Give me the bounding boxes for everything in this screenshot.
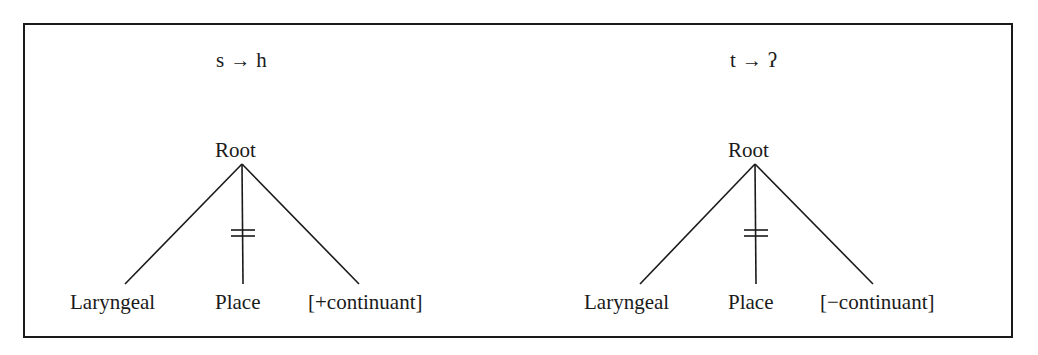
edge-root-place-left <box>242 164 243 284</box>
root-node-left: Root <box>215 140 256 161</box>
place-node-right: Place <box>728 292 773 313</box>
rule-output: h <box>256 48 267 72</box>
rule-output: ʔ <box>768 48 777 72</box>
rule-right: t→ʔ <box>730 50 777 71</box>
edge-root-laryngeal-left <box>125 164 242 284</box>
edge-root-laryngeal-right <box>640 164 755 284</box>
arrow-icon: → <box>230 50 250 70</box>
place-node-left: Place <box>215 292 260 313</box>
laryngeal-node-right: Laryngeal <box>584 292 669 313</box>
edge-root-continuant-right <box>755 164 873 284</box>
edge-root-continuant-left <box>242 164 359 284</box>
rule-input: t <box>730 48 736 72</box>
continuant-node-left: [+continuant] <box>308 292 422 313</box>
continuant-node-right: [−continuant] <box>820 292 934 313</box>
root-node-right: Root <box>728 140 769 161</box>
rule-left: s→h <box>216 50 267 71</box>
edge-root-place-right <box>755 164 756 284</box>
arrow-icon: → <box>742 50 762 70</box>
rule-input: s <box>216 48 224 72</box>
laryngeal-node-left: Laryngeal <box>70 292 155 313</box>
